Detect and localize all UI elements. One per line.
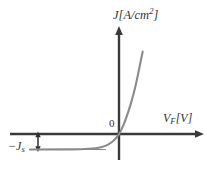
y-axis-label-close: ] <box>154 8 159 22</box>
y-axis-arrowhead <box>115 26 123 35</box>
saturation-current-label: −Js <box>8 140 25 154</box>
saturation-label-subscript: s <box>21 144 24 154</box>
diode-iv-characteristic-figure: J[A/cm2] VF[V] 0 −Js <box>0 0 207 172</box>
y-axis-label-main: J[A/cm <box>113 8 149 22</box>
origin-label: 0 <box>109 118 115 129</box>
x-axis-label: VF[V] <box>163 112 192 126</box>
chart-canvas <box>0 0 207 172</box>
saturation-label-main: −J <box>8 139 21 153</box>
x-axis-arrowhead <box>195 130 204 138</box>
y-axis-label: J[A/cm2] <box>113 7 158 21</box>
x-axis-label-close: [V] <box>176 111 193 125</box>
